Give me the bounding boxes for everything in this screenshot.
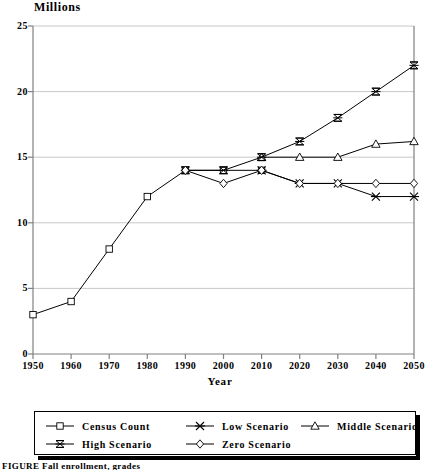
y-axis-tick-label: 0 [2, 348, 28, 359]
diamond-marker [220, 179, 227, 187]
y-axis-tick-label: 25 [2, 20, 28, 31]
gridlines [33, 26, 414, 288]
legend-marker-x-cross [185, 419, 215, 433]
plot-area [0, 0, 440, 400]
data-point-marker-diamond [372, 179, 379, 187]
x-axis-tick-label: 1990 [165, 360, 205, 371]
series-census-count [30, 167, 265, 318]
data-point-marker-star-box [371, 88, 380, 95]
x-axis-tick-label: 2010 [242, 360, 282, 371]
legend-item[interactable]: High Scenario [45, 435, 152, 453]
data-point-marker-diamond [220, 179, 227, 187]
x-axis-tick-label: 2050 [394, 360, 434, 371]
diamond-marker [196, 440, 203, 448]
y-axis-tick-label: 5 [2, 282, 28, 293]
diamond-marker [372, 179, 379, 187]
square-marker [144, 193, 150, 199]
square-marker [106, 246, 112, 252]
series-line [33, 170, 262, 314]
data-point-marker-star-box [295, 138, 304, 145]
diamond-marker [410, 179, 417, 187]
x-axis-tick-label: 1980 [127, 360, 167, 371]
legend-item[interactable]: Zero Scenario [185, 435, 291, 453]
y-axis-tick-label: 15 [2, 151, 28, 162]
data-point-marker-diamond [196, 440, 203, 448]
legend-label: Census Count [82, 421, 150, 432]
x-axis-tick-label: 1950 [13, 360, 53, 371]
data-series-layer [30, 62, 419, 318]
x-axis-tick-label: 2020 [280, 360, 320, 371]
data-point-marker-star-box [55, 441, 64, 448]
data-point-marker-star-box [333, 114, 342, 121]
legend-item[interactable]: Census Count [45, 417, 150, 435]
square-marker [30, 311, 36, 317]
legend-label: High Scenario [82, 439, 152, 450]
x-axis-title: Year [0, 375, 440, 387]
legend-marker-star-box [45, 437, 75, 451]
chart-figure: Millions 0510152025 19501960197019801990… [0, 0, 440, 470]
square-marker [57, 423, 63, 429]
y-axis-tick-label: 10 [2, 217, 28, 228]
x-axis-tick-label: 2000 [204, 360, 244, 371]
data-point-marker-square [106, 246, 112, 252]
x-axis-tick-label: 1970 [89, 360, 129, 371]
legend-item[interactable]: Low Scenario [185, 417, 289, 435]
data-point-marker-square [57, 423, 63, 429]
x-axis-tick-label: 2030 [318, 360, 358, 371]
axis-ticks [28, 26, 414, 359]
data-point-marker-x-cross [371, 193, 381, 201]
figure-caption: FIGURE Fall enrollment, grades [2, 461, 438, 470]
data-point-marker-x-cross [195, 422, 205, 430]
legend-marker-square [45, 419, 75, 433]
data-point-marker-square [144, 193, 150, 199]
data-point-marker-square [30, 311, 36, 317]
y-axis-tick-label: 20 [2, 86, 28, 97]
legend-item[interactable]: Middle Scenario [300, 417, 418, 435]
data-point-marker-diamond [410, 179, 417, 187]
legend-label: Low Scenario [222, 421, 289, 432]
x-axis-tick-label: 2040 [356, 360, 396, 371]
legend-marker-triangle [300, 419, 330, 433]
x-axis-tick-label: 1960 [51, 360, 91, 371]
square-marker [68, 298, 74, 304]
series-zero-scenario [182, 166, 418, 188]
legend-shadow-bottom [38, 456, 420, 460]
legend-label: Zero Scenario [222, 439, 291, 450]
data-point-marker-triangle [410, 137, 418, 144]
data-point-marker-square [68, 298, 74, 304]
chart-legend: Census CountLow ScenarioMiddle ScenarioH… [34, 411, 416, 455]
legend-marker-diamond [185, 437, 215, 451]
triangle-marker [410, 137, 418, 144]
legend-label: Middle Scenario [337, 421, 418, 432]
